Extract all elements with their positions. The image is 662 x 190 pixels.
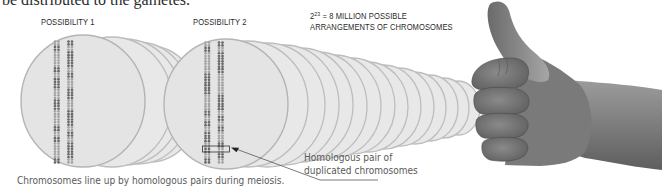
possibility-1-label: POSSIBILITY 1 bbox=[41, 17, 95, 28]
arrangements-line-2: ARRANGEMENTS OF CHROMOSOMES bbox=[310, 22, 453, 33]
homologous-pair-callout: Homologous pair of duplicated chromosome… bbox=[292, 151, 378, 177]
arrangements-label: 223 = 8 MILLION POSSIBLE ARRANGEMENTS OF… bbox=[310, 11, 453, 33]
metaphase-plate-1 bbox=[21, 35, 145, 167]
callout-line-2: duplicated chromosomes bbox=[304, 164, 378, 177]
metaphase-plate-2 bbox=[164, 39, 288, 169]
figure-caption: Chromosomes line up by homologous pairs … bbox=[17, 174, 284, 186]
thumbs-up-hand-illustration bbox=[472, 2, 662, 170]
callout-line-1: Homologous pair of bbox=[304, 151, 378, 164]
arrangements-line-1: 223 = 8 MILLION POSSIBLE bbox=[310, 11, 453, 22]
possibility-2-label: POSSIBILITY 2 bbox=[193, 17, 247, 28]
